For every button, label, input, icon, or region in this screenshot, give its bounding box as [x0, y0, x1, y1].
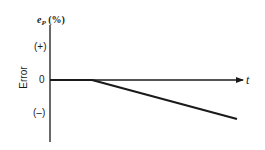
y-axis-symbol-label: eP (%) [37, 14, 65, 27]
y-axis-subscript: P [41, 19, 45, 27]
x-axis-label: t [246, 73, 249, 88]
tick-label-negative: (–) [33, 108, 45, 118]
tick-label-zero: 0 [39, 75, 45, 85]
y-axis-unit: (%) [48, 14, 65, 25]
y-axis-title: Error [18, 63, 29, 93]
error-line [50, 80, 237, 119]
tick-label-positive: (+) [34, 42, 47, 52]
